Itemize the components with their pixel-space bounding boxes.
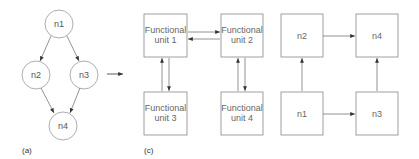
edge-n1-n3	[67, 36, 79, 61]
unit-3-line1: Functional	[145, 103, 187, 113]
functional-unit-3: Functional unit 3	[144, 92, 187, 135]
panel-a-graph: n1 n2 n3 n4 (a)	[22, 10, 98, 155]
unit-4-line1: Functional	[221, 103, 263, 113]
unit-3-line2: unit 3	[154, 113, 176, 123]
map-box-n3: n3	[356, 92, 398, 135]
edge-n3-n4	[70, 88, 80, 113]
node-n2: n2	[22, 61, 50, 89]
functional-unit-2: Functional unit 2	[221, 14, 263, 57]
node-n1-label: n1	[54, 19, 64, 29]
unit-4-line2: unit 4	[231, 113, 253, 123]
edge-n2-n4	[41, 88, 54, 113]
panel-c-label: (c)	[144, 146, 154, 155]
unit-1-line2: unit 1	[154, 35, 176, 45]
map-n1-label: n1	[297, 109, 307, 119]
node-n3: n3	[70, 61, 98, 89]
node-n4-label: n4	[58, 121, 68, 131]
map-box-n2: n2	[281, 14, 323, 57]
panel-a-label: (a)	[22, 146, 32, 155]
node-n2-label: n2	[31, 70, 41, 80]
functional-unit-1: Functional unit 1	[144, 14, 187, 57]
unit-2-line2: unit 2	[231, 35, 253, 45]
edge-n1-n2	[40, 36, 51, 61]
map-box-n1: n1	[281, 92, 323, 135]
map-n3-label: n3	[372, 109, 382, 119]
functional-unit-4: Functional unit 4	[221, 92, 263, 135]
node-n3-label: n3	[79, 70, 89, 80]
node-n4: n4	[49, 112, 77, 140]
unit-2-line1: Functional	[221, 25, 263, 35]
unit-1-line1: Functional	[145, 25, 187, 35]
node-n1: n1	[45, 10, 73, 38]
diagram-canvas: n1 n2 n3 n4 (a) Functional unit 1 Func	[0, 0, 419, 159]
panel-c-units: Functional unit 1 Functional unit 2 Func…	[144, 14, 263, 155]
map-box-n4: n4	[356, 14, 398, 57]
panel-mapping: n2 n4 n1 n3	[281, 14, 398, 135]
map-n2-label: n2	[297, 31, 307, 41]
map-n4-label: n4	[372, 31, 382, 41]
